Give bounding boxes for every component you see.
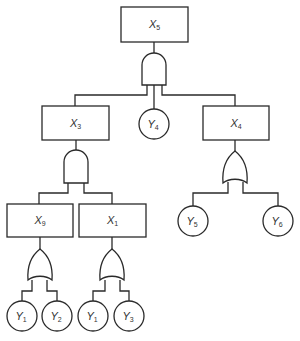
event-label-sub: 5 [194,221,198,228]
event-label-sub: 6 [279,221,283,228]
and-gate-icon [64,150,88,183]
fault-tree-diagram: X5 X3 X4 X9 X1 Y4 [0,0,300,341]
event-box-x4: X4 [203,106,269,140]
basic-event-y1: Y1 [78,301,108,331]
event-label-sub: 4 [238,123,242,130]
or-gate-icon [223,151,247,183]
event-box-x5: X5 [121,7,188,42]
basic-event-y3: Y3 [114,301,144,331]
event-label-sub: 2 [58,316,62,323]
event-label-sub: 1 [94,316,98,323]
event-label-sub: 1 [23,316,27,323]
event-box-x3: X3 [42,106,109,140]
event-label-sub: 5 [156,24,160,31]
and-gate-icon [142,53,166,85]
fault-tree-svg: X5 X3 X4 X9 X1 Y4 [0,0,300,341]
basic-event-y5: Y5 [178,206,208,236]
basic-event-y1: Y1 [7,301,37,331]
event-label-sub: 3 [130,316,134,323]
event-box-x1: X1 [79,204,146,237]
basic-event-y4: Y4 [139,109,169,139]
or-gate-icon [100,249,124,280]
event-label-sub: 4 [155,124,159,131]
basic-event-y2: Y2 [42,301,72,331]
basic-event-y6: Y6 [263,206,293,236]
event-label-sub: 9 [42,220,46,227]
event-label-sub: 3 [77,123,81,130]
or-gate-icon [28,249,52,280]
event-box-x9: X9 [7,204,73,237]
event-label-sub: 1 [114,220,118,227]
